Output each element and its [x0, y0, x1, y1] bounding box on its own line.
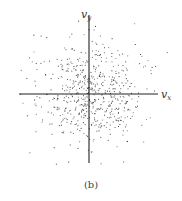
velocity-scatter-plot — [0, 0, 182, 201]
y-axis-label: vy — [81, 9, 91, 22]
scatter-points — [20, 21, 168, 165]
y-axis-label-sub: y — [87, 14, 91, 22]
x-axis-label-sub: x — [167, 94, 171, 102]
figure-caption: (b) — [0, 179, 182, 190]
x-axis-label: vx — [161, 89, 171, 102]
